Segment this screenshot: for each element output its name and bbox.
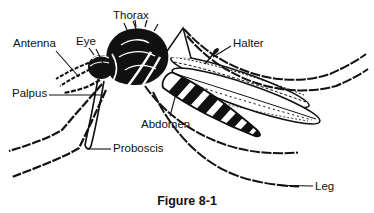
label-antenna: Antenna (13, 37, 56, 49)
label-thorax: Thorax (113, 9, 149, 21)
front-leg-lower (12, 90, 106, 177)
figure-caption: Figure 8-1 (0, 194, 374, 208)
label-palpus: Palpus (12, 87, 47, 99)
label-leg: Leg (315, 180, 334, 192)
leader-leg (285, 186, 313, 187)
label-halter: Halter (233, 37, 264, 49)
label-eye: Eye (76, 35, 96, 47)
label-proboscis: Proboscis (113, 142, 164, 154)
figure-8-1-diagram: Antenna Eye Thorax Halter Palpus Abdomen… (0, 0, 374, 213)
head-hair (89, 48, 94, 55)
label-abdomen: Abdomen (141, 118, 190, 130)
